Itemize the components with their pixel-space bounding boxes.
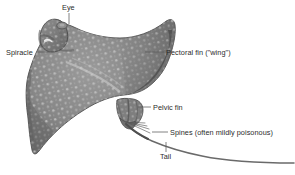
label-spines: Spines (often mildly poisonous) — [170, 128, 273, 137]
ray-illustration — [0, 0, 295, 175]
label-tail: Tail — [160, 152, 171, 161]
label-pelvic-fin: Pelvic fin — [153, 103, 183, 112]
label-pectoral-fin: Pectoral fin ("wing") — [166, 48, 231, 57]
label-spiracle: Spiracle — [6, 48, 33, 57]
label-eye: Eye — [62, 3, 75, 12]
ray-anatomy-figure: Eye Spiracle Pectoral fin ("wing") Pelvi… — [0, 0, 295, 175]
ray-body-group — [20, 12, 294, 163]
